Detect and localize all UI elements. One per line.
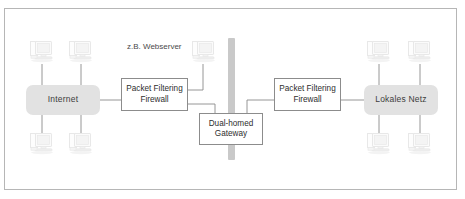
local-network-label: Lokales Netz bbox=[375, 95, 427, 105]
firewall-left-label-line2: Firewall bbox=[140, 95, 168, 104]
gateway-label-line1: Dual-homed bbox=[209, 119, 254, 128]
lan-host-top-right-computer-icon[interactable] bbox=[407, 40, 433, 64]
webserver-label: z.B. Webserver bbox=[127, 42, 182, 51]
packet-filtering-firewall-left[interactable]: Packet Filtering Firewall bbox=[121, 78, 188, 111]
firewall-right-label-line1: Packet Filtering bbox=[279, 84, 335, 93]
firewall-right-label-line2: Firewall bbox=[293, 95, 321, 104]
packet-filtering-firewall-right[interactable]: Packet Filtering Firewall bbox=[274, 78, 341, 111]
lan-host-bottom-left-computer-icon[interactable] bbox=[366, 132, 392, 156]
internet-host-bottom-right-computer-icon[interactable] bbox=[68, 132, 94, 156]
gateway-label: Dual-homed Gateway bbox=[209, 119, 254, 140]
dmz-webserver-host-computer-icon[interactable] bbox=[191, 40, 217, 64]
internet-cloud-node[interactable]: Internet bbox=[26, 85, 100, 115]
internet-cloud-label: Internet bbox=[48, 95, 78, 105]
lan-host-bottom-right-computer-icon[interactable] bbox=[407, 132, 433, 156]
internet-host-bottom-left-computer-icon[interactable] bbox=[29, 132, 55, 156]
local-network-node[interactable]: Lokales Netz bbox=[364, 85, 438, 115]
firewall-left-label: Packet Filtering Firewall bbox=[126, 84, 182, 105]
gateway-label-line2: Gateway bbox=[215, 129, 247, 138]
firewall-left-to-gateway bbox=[188, 104, 215, 113]
lan-host-top-left-computer-icon[interactable] bbox=[366, 40, 392, 64]
gateway-to-firewall-right bbox=[247, 100, 274, 113]
firewall-right-label: Packet Filtering Firewall bbox=[279, 84, 335, 105]
network-diagram-root: Internet Lokales Netz Packet Filtering F… bbox=[0, 0, 465, 199]
internet-host-top-right-computer-icon[interactable] bbox=[68, 40, 94, 64]
firewall-left-label-line1: Packet Filtering bbox=[126, 84, 182, 93]
firewall-left-to-webserver bbox=[188, 64, 203, 90]
dual-homed-gateway-node[interactable]: Dual-homed Gateway bbox=[199, 113, 263, 145]
internet-host-top-left-computer-icon[interactable] bbox=[29, 40, 55, 64]
diagram-canvas: Internet Lokales Netz Packet Filtering F… bbox=[0, 0, 465, 199]
